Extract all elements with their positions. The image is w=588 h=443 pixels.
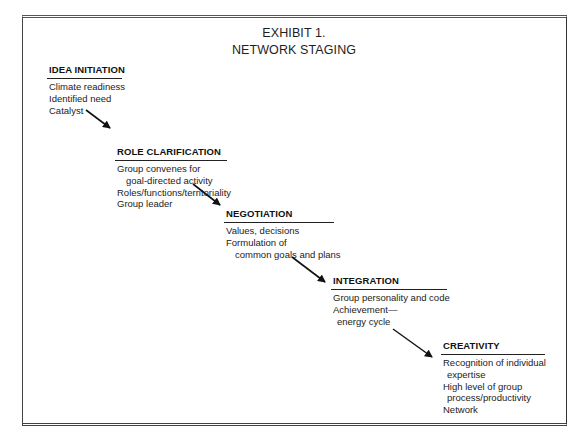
stage-item: Values, decisions [224,225,334,237]
heading-underline [224,222,334,223]
stage-item: Formulation of [224,237,334,249]
stage-item: Climate readiness [47,81,122,93]
stage-item: Network [441,404,545,416]
stage-heading: NEGOTIATION [224,208,334,220]
stage-role-clarification: ROLE CLARIFICATION Group convenes for go… [115,146,227,210]
stage-heading: CREATIVITY [441,340,545,352]
stage-item: Recognition of individual [441,357,545,369]
stage-item: expertise [441,369,545,381]
stage-item: Roles/functions/territoriality [115,187,227,199]
stage-item: Group leader [115,198,227,210]
stage-item: Achievement— [331,304,447,316]
stage-creativity: CREATIVITY Recognition of individual exp… [441,340,545,416]
stage-item: Group convenes for [115,163,227,175]
stage-idea-initiation: IDEA INITIATION Climate readiness Identi… [47,64,122,116]
heading-underline [115,160,227,161]
stage-item: Identified need [47,93,122,105]
stage-item: process/productivity [441,392,545,404]
heading-underline [47,78,122,79]
heading-underline [441,354,545,355]
stage-heading: INTEGRATION [331,275,447,287]
heading-underline [331,289,447,290]
stage-negotiation: NEGOTIATION Values, decisions Formulatio… [224,208,334,260]
stage-item: Group personality and code [331,292,447,304]
exhibit-title: NETWORK STAGING [0,42,588,59]
stage-item: energy cycle [331,316,447,328]
stage-item: common goals and plans [224,249,334,261]
stage-item: High level of group [441,381,545,393]
stage-item: goal-directed activity [115,175,227,187]
exhibit-number: EXHIBIT 1. [0,25,588,42]
stage-integration: INTEGRATION Group personality and code A… [331,275,447,327]
stage-item: Catalyst [47,105,122,117]
stage-heading: ROLE CLARIFICATION [115,146,227,158]
stage-heading: IDEA INITIATION [47,64,122,76]
